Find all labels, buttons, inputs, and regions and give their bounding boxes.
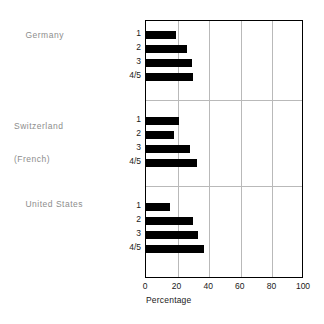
group-separator: [146, 186, 302, 187]
category-label: 3: [115, 57, 141, 66]
x-tick-label: 40: [195, 281, 221, 291]
bar: [146, 73, 193, 81]
category-label: 1: [115, 201, 141, 210]
bar: [146, 245, 204, 253]
bar: [146, 203, 170, 211]
x-tick-label: 60: [227, 281, 253, 291]
bar: [146, 45, 187, 53]
gridline-60: [241, 21, 242, 277]
bar: [146, 117, 179, 125]
group-label-germany-line1: Germany: [25, 30, 63, 40]
bar: [146, 217, 193, 225]
bar-chart-figure: Germany Switzerland (French) United Stat…: [0, 0, 324, 324]
category-label: 3: [115, 143, 141, 152]
bar: [146, 31, 176, 39]
bar: [146, 131, 174, 139]
group-label-switzerland: Switzerland (French): [14, 99, 63, 187]
group-label-united-states-line1: United States: [25, 199, 83, 209]
category-label: 4/5: [115, 243, 141, 252]
category-label: 4/5: [115, 71, 141, 80]
x-tick-label: 100: [290, 281, 316, 291]
gridline-40: [209, 21, 210, 277]
category-label: 2: [115, 129, 141, 138]
bar: [146, 231, 198, 239]
bar: [146, 145, 190, 153]
category-label: 2: [115, 43, 141, 52]
group-label-germany: Germany: [14, 19, 64, 52]
x-tick-label: 20: [164, 281, 190, 291]
category-label: 4/5: [115, 157, 141, 166]
x-tick-label: 0: [132, 281, 158, 291]
bar: [146, 159, 197, 167]
gridline-80: [272, 21, 273, 277]
group-label-switzerland-line1: Switzerland: [14, 121, 63, 132]
x-axis-label: Percentage: [146, 295, 191, 305]
group-label-united-states: United States: [14, 188, 83, 221]
group-label-switzerland-line2: (French): [14, 154, 63, 165]
category-label: 1: [115, 115, 141, 124]
category-label: 3: [115, 229, 141, 238]
category-label: 2: [115, 215, 141, 224]
plot-area: [145, 20, 303, 278]
group-separator: [146, 100, 302, 101]
x-tick-label: 80: [258, 281, 284, 291]
category-label: 1: [115, 29, 141, 38]
bar: [146, 59, 192, 67]
